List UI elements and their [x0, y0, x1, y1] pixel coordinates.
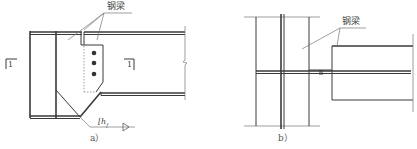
weld-symbol-subscript: f [106, 122, 108, 128]
figure-a-weld-symbol: ⌊hf [98, 118, 108, 128]
figure-a-drawing [6, 13, 187, 131]
figure-a-beam-label: 钢梁 [107, 2, 125, 11]
bolt-icon [92, 61, 97, 66]
figure-a-caption: a） [90, 134, 104, 143]
figure-a-section-mark-left: 1 [8, 61, 13, 69]
bolt-icon [92, 51, 97, 56]
figure-a-section-mark-right: 1 [127, 61, 132, 69]
bolt-icon [92, 72, 97, 77]
figure-b-caption: b） [278, 134, 293, 143]
figure-b-drawing [244, 14, 413, 129]
figure-b-beam-label: 钢梁 [342, 17, 360, 26]
